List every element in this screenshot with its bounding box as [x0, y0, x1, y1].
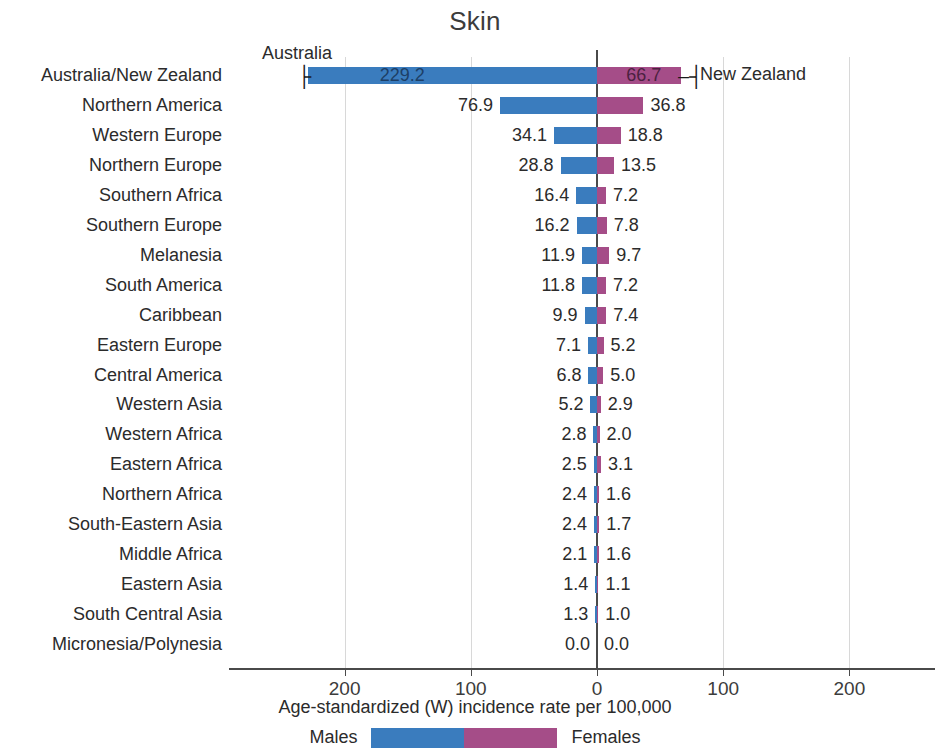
chart-row: Southern Europe16.27.8	[0, 210, 950, 240]
category-label: Western Asia	[0, 389, 222, 419]
value-label-male: 5.2	[558, 389, 590, 419]
chart-row: South America11.87.2	[0, 270, 950, 300]
value-label-male: 16.2	[535, 210, 577, 240]
x-axis-tick	[471, 668, 472, 676]
value-label-male: 16.4	[534, 180, 576, 210]
category-label: South America	[0, 270, 222, 300]
value-label-male: 6.8	[556, 360, 588, 390]
chart-row: Western Europe34.118.8	[0, 120, 950, 150]
value-label-male: 229.2	[380, 60, 425, 90]
category-label: Melanesia	[0, 240, 222, 270]
category-label: Caribbean	[0, 300, 222, 330]
category-label: Western Europe	[0, 120, 222, 150]
value-label-female: 13.5	[614, 150, 656, 180]
category-label: Southern Africa	[0, 180, 222, 210]
chart-row: Eastern Asia1.41.1	[0, 569, 950, 599]
category-label: South-Eastern Asia	[0, 509, 222, 539]
bar-male	[500, 97, 597, 114]
value-label-female: 9.7	[609, 240, 641, 270]
chart-row: Central America6.85.0	[0, 360, 950, 390]
chart-container: Skin 2001000100200Australia/New Zealand2…	[0, 0, 950, 749]
bar-male	[588, 367, 597, 384]
bar-male	[582, 247, 597, 264]
chart-legend: Males Females	[0, 727, 950, 748]
annotation-new-zealand: New Zealand	[700, 64, 806, 85]
legend-label-males: Males	[309, 727, 357, 748]
value-label-male: 1.4	[563, 569, 595, 599]
value-label-female: 66.7	[626, 60, 661, 90]
chart-row: Southern Africa16.47.2	[0, 180, 950, 210]
value-label-female: 0.0	[597, 629, 629, 659]
value-label-female: 1.6	[599, 479, 631, 509]
value-label-male: 11.9	[541, 240, 582, 270]
value-label-female: 2.9	[601, 389, 633, 419]
bar-male	[576, 187, 597, 204]
category-label: Micronesia/Polynesia	[0, 629, 222, 659]
chart-row: Northern Africa2.41.6	[0, 479, 950, 509]
category-label: Western Africa	[0, 419, 222, 449]
value-label-female: 36.8	[643, 90, 685, 120]
x-axis-tick	[597, 668, 598, 676]
category-label: Northern Africa	[0, 479, 222, 509]
legend-swatch-males	[371, 728, 464, 748]
value-label-male: 2.4	[562, 509, 594, 539]
category-label: Northern America	[0, 90, 222, 120]
value-label-male: 76.9	[458, 90, 500, 120]
value-label-male: 2.5	[562, 449, 594, 479]
value-label-female: 3.1	[601, 449, 633, 479]
legend-swatch-females	[464, 728, 557, 748]
chart-row: Australia/New Zealand229.266.7	[0, 60, 950, 90]
chart-row: Northern Europe28.813.5	[0, 150, 950, 180]
bar-female	[597, 157, 614, 174]
category-label: South Central Asia	[0, 599, 222, 629]
value-label-male: 2.1	[562, 539, 594, 569]
value-label-female: 1.0	[598, 599, 630, 629]
chart-row: Melanesia11.99.7	[0, 240, 950, 270]
bar-male	[554, 127, 597, 144]
bar-female	[597, 307, 606, 324]
category-label: Australia/New Zealand	[0, 60, 222, 90]
value-label-male: 11.8	[541, 270, 582, 300]
chart-row: South Central Asia1.31.0	[0, 599, 950, 629]
chart-row: Eastern Africa2.53.1	[0, 449, 950, 479]
category-label: Northern Europe	[0, 150, 222, 180]
value-label-female: 1.1	[598, 569, 630, 599]
value-label-female: 7.8	[607, 210, 639, 240]
legend-label-females: Females	[571, 727, 640, 748]
bar-female	[597, 277, 606, 294]
chart-row: Western Africa2.82.0	[0, 419, 950, 449]
category-label: Central America	[0, 360, 222, 390]
annotation-australia-bracket: ├	[297, 66, 311, 86]
bar-male	[561, 157, 597, 174]
bar-female	[597, 127, 621, 144]
bar-female	[597, 187, 606, 204]
value-label-female: 1.6	[599, 539, 631, 569]
annotation-australia: Australia	[262, 43, 332, 64]
value-label-male: 1.3	[563, 599, 595, 629]
x-axis-line	[229, 668, 935, 670]
category-label: Eastern Europe	[0, 330, 222, 360]
bar-female	[597, 217, 607, 234]
category-label: Eastern Africa	[0, 449, 222, 479]
value-label-female: 7.2	[606, 180, 638, 210]
chart-row: South-Eastern Asia2.41.7	[0, 509, 950, 539]
bar-male	[585, 307, 597, 324]
chart-row: Middle Africa2.11.6	[0, 539, 950, 569]
value-label-male: 28.8	[519, 150, 561, 180]
value-label-male: 2.4	[562, 479, 594, 509]
value-label-female: 5.2	[604, 330, 636, 360]
value-label-female: 18.8	[621, 120, 663, 150]
value-label-male: 2.8	[561, 419, 593, 449]
x-axis-tick	[345, 668, 346, 676]
category-label: Eastern Asia	[0, 569, 222, 599]
value-label-female: 7.2	[606, 270, 638, 300]
chart-row: Western Asia5.22.9	[0, 389, 950, 419]
x-axis-tick	[849, 668, 850, 676]
value-label-male: 34.1	[512, 120, 554, 150]
chart-row: Micronesia/Polynesia0.00.0	[0, 629, 950, 659]
x-axis-tick	[723, 668, 724, 676]
value-label-female: 5.0	[603, 360, 635, 390]
value-label-female: 7.4	[606, 300, 638, 330]
x-axis-caption: Age-standardized (W) incidence rate per …	[0, 697, 950, 718]
category-label: Middle Africa	[0, 539, 222, 569]
